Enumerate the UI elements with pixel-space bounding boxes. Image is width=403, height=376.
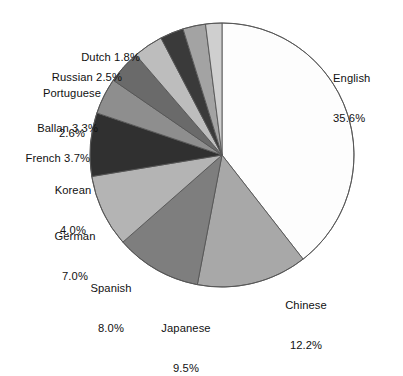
pie-label-japanese-name: Japanese	[148, 322, 224, 335]
pie-label-chinese-name: Chinese	[274, 299, 338, 312]
pie-label-korean-value: 4.0%	[42, 224, 104, 237]
pie-label-dutch-text: Dutch 1.8%	[54, 51, 140, 64]
pie-label-chinese: Chinese 12.2%	[274, 272, 338, 376]
pie-label-dutch: Dutch 1.8%	[54, 24, 140, 91]
pie-label-english: English 35.6%	[333, 45, 370, 152]
pie-label-chinese-value: 12.2%	[274, 339, 338, 352]
pie-label-japanese-value: 9.5%	[148, 362, 224, 375]
pie-label-english-value: 35.6%	[333, 112, 370, 125]
pie-label-spanish-value: 8.0%	[78, 322, 144, 335]
pie-label-portuguese-value: 2.6%	[31, 127, 113, 140]
pie-label-japanese: Japanese 9.5%	[148, 295, 224, 376]
pie-label-english-name: English	[333, 72, 370, 85]
pie-label-german-value: 7.0%	[42, 270, 108, 283]
